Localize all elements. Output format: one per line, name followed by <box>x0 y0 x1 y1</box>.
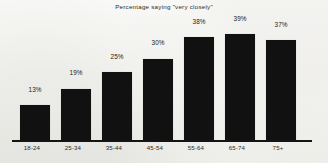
plot-area: 13% 19% 25% 30% 38% 39% 37% <box>14 18 316 140</box>
x-axis-line <box>12 140 312 142</box>
bar-group: 39% <box>223 18 257 140</box>
bar-value-label: 19% <box>59 69 93 76</box>
bar-group: 19% <box>59 18 93 140</box>
bar-group: 13% <box>18 18 52 140</box>
bar-value-label: 25% <box>100 53 134 60</box>
bar-group: 37% <box>264 18 298 140</box>
bar-rect <box>143 59 173 140</box>
bar-rect <box>102 72 132 140</box>
bar-value-label: 39% <box>223 15 257 22</box>
bar-value-label: 13% <box>18 86 52 93</box>
bar-group: 25% <box>100 18 134 140</box>
bar-group: 30% <box>141 18 175 140</box>
x-axis-tick-label: 18-24 <box>12 144 52 151</box>
bar-rect <box>266 40 296 140</box>
bar-rect <box>61 89 91 140</box>
x-axis-tick-label: 55-64 <box>176 144 216 151</box>
bar-value-label: 30% <box>141 39 175 46</box>
chart-title: Percentage saying "very closely" <box>0 3 328 10</box>
bar-value-label: 38% <box>182 18 216 25</box>
x-axis-tick-label: 35-44 <box>94 144 134 151</box>
x-axis-tick-labels: 18-24 25-34 35-44 45-54 55-64 65-74 75+ <box>14 144 316 158</box>
x-axis-tick-label: 25-34 <box>53 144 93 151</box>
x-axis-tick-label: 65-74 <box>217 144 257 151</box>
bar-rect <box>225 34 255 140</box>
bar-rect <box>20 105 50 140</box>
bar-group: 38% <box>182 18 216 140</box>
bar-value-label: 37% <box>264 21 298 28</box>
bar-chart-figure: Percentage saying "very closely" 13% 19%… <box>0 0 328 163</box>
x-axis-tick-label: 45-54 <box>135 144 175 151</box>
x-axis-tick-label: 75+ <box>258 144 298 151</box>
bar-rect <box>184 37 214 140</box>
